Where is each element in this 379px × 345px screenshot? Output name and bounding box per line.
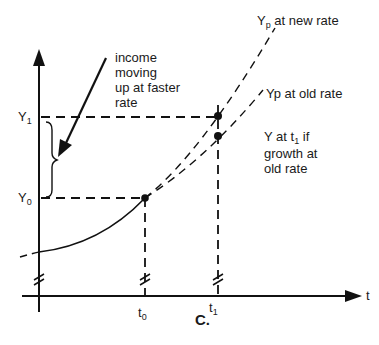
y-axis-arrowhead	[33, 49, 45, 66]
yp-old-rate-label: Yp at old rate	[266, 86, 342, 101]
past-income-dashed-extension	[20, 252, 39, 257]
brace-icon	[46, 122, 57, 197]
x-axis-arrowhead	[345, 290, 362, 302]
y1-label: Y1	[18, 109, 32, 126]
diagram-canvas	[0, 0, 379, 345]
actual-income-curve	[39, 198, 145, 252]
t0-label: t0	[138, 305, 147, 322]
point-t0-y0	[141, 194, 149, 202]
t1-label: t1	[209, 300, 218, 317]
annotation-arrow-line	[66, 58, 106, 143]
point-t1-y1	[214, 112, 222, 120]
income-moving-annotation: income moving up at faster rate	[115, 50, 180, 110]
panel-label: C.	[195, 312, 210, 327]
y-at-t1-annotation: Y at t1 if growth at old rate	[264, 129, 317, 176]
x-axis-label-t: t	[366, 288, 370, 303]
annotation-arrowhead	[58, 139, 72, 157]
point-t1-old-rate	[214, 132, 222, 140]
y0-label: Y0	[18, 190, 32, 207]
yp-new-rate-label: Yp at new rate	[257, 13, 339, 30]
